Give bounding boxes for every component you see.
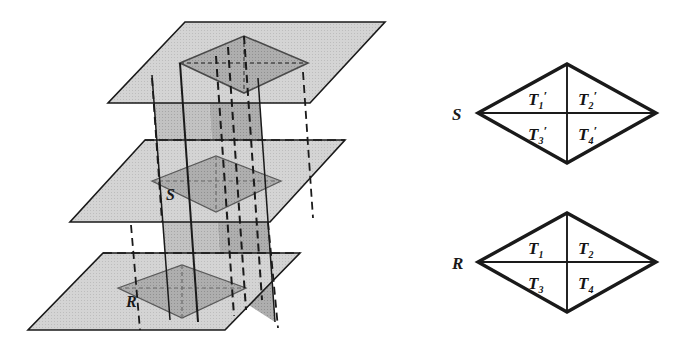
label-S-3d: S bbox=[166, 186, 175, 203]
rhombus-r-detail: R T1 T2 T3 T4 bbox=[451, 213, 656, 312]
bottom-plane-group bbox=[28, 253, 300, 330]
rhombus-r-vertex-label: R bbox=[451, 254, 463, 273]
rhombus-s-detail: S T1′ T2′ T3′ T4′ bbox=[452, 64, 656, 163]
label-R-3d: R bbox=[125, 293, 137, 310]
geometry-figure: S R S T1′ T2′ T3′ T4′ R T1 T2 T3 T4 bbox=[0, 0, 690, 348]
rhombus-s-vertex-label: S bbox=[452, 105, 461, 124]
figure-canvas: S R S T1′ T2′ T3′ T4′ R T1 T2 T3 T4 bbox=[0, 0, 690, 348]
left-3d-diagram: S R bbox=[28, 22, 385, 330]
middle-plane-group bbox=[70, 140, 345, 222]
